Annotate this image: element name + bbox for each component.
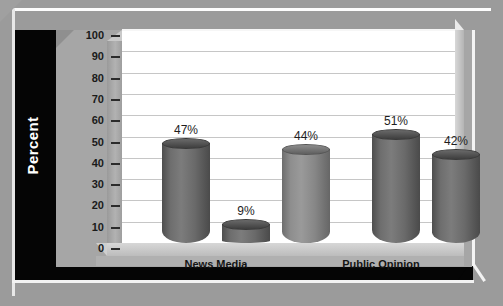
gridline [122, 51, 455, 52]
plot-floor [107, 243, 464, 256]
y-axis-tick [111, 142, 120, 144]
y-axis-tick-label: 40 [68, 158, 104, 169]
bar-value-label: 9% [208, 204, 284, 218]
bar-value-label: 47% [148, 123, 224, 137]
gridline [122, 94, 455, 95]
y-axis-tick [111, 227, 120, 229]
y-axis-tick [111, 56, 120, 58]
y-axis-tick [111, 120, 120, 122]
bar-body [162, 143, 210, 243]
y-axis-tick [111, 184, 120, 186]
bar-body [282, 149, 330, 243]
y-axis-tick-label: 10 [68, 222, 104, 233]
y-axis-tick-label: 0 [68, 243, 104, 254]
bar-top-cap [432, 149, 480, 160]
bar-cylinder [372, 134, 420, 243]
bar-value-label: 42% [418, 134, 494, 148]
y-axis-tick-label: 100 [68, 30, 104, 41]
y-axis-tick-label: 70 [68, 94, 104, 105]
chart-screenshot: Percent 1009080706050403020100 47%9%44%5… [0, 0, 503, 306]
y-axis-tick-label: 80 [68, 73, 104, 84]
plot-right-wall-cap [455, 19, 464, 30]
y-axis-tick [111, 78, 120, 80]
y-axis-title: Percent [25, 116, 42, 174]
y-axis-tick-label: 50 [68, 137, 104, 148]
y-axis-tick [111, 35, 120, 37]
y-axis-tick-label: 90 [68, 51, 104, 62]
frame-top-edge [12, 8, 491, 11]
y-axis-tick [111, 205, 120, 207]
y-axis-tick-label: 20 [68, 200, 104, 211]
bar-cylinder [162, 143, 210, 243]
bar-value-label: 44% [268, 129, 344, 143]
bar-cylinder [282, 149, 330, 243]
category-label-news-media: News Media [151, 258, 281, 270]
y-axis-tick-label: 30 [68, 179, 104, 190]
chart-area: 1009080706050403020100 47%9%44%51%42% Ne… [56, 30, 472, 267]
frame-corner-chamfer [0, 0, 22, 22]
y-axis-tick [111, 163, 120, 165]
gridline [122, 73, 455, 74]
bar-body [432, 154, 480, 243]
y-axis-title-band: Percent [20, 32, 46, 258]
frame-bottom-highlight [12, 280, 474, 283]
y-axis-tick [111, 248, 120, 250]
y-axis-tick [111, 99, 120, 101]
bar-top-cap [162, 138, 210, 149]
bar-top-cap [222, 219, 270, 230]
bar-value-label: 51% [358, 114, 434, 128]
y-axis-tick-label: 60 [68, 115, 104, 126]
bar-body [372, 134, 420, 243]
bar-cylinder [222, 224, 270, 243]
category-label-public-opinion: Public Opinion [311, 258, 451, 270]
plot-top-edge [122, 29, 455, 31]
bar-cylinder [432, 154, 480, 243]
